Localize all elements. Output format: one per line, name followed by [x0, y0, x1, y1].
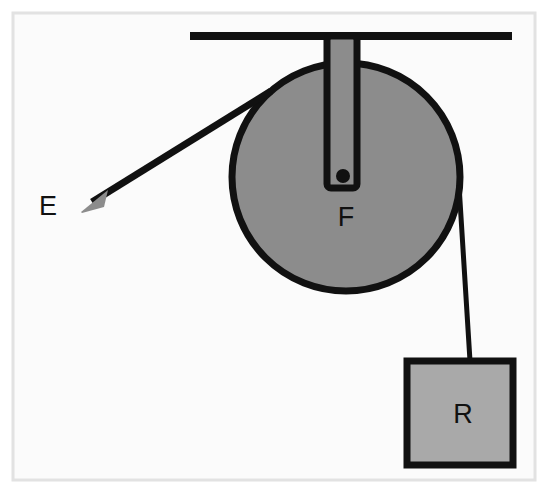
pulley-mount-bracket — [327, 36, 357, 188]
label-effort: E — [39, 191, 57, 221]
label-resistance: R — [453, 399, 473, 429]
diagram-canvas: E F R — [0, 0, 554, 494]
pulley-axle-dot — [336, 169, 350, 183]
label-fulcrum: F — [338, 202, 355, 232]
pulley-diagram-figure: E F R — [0, 0, 554, 494]
